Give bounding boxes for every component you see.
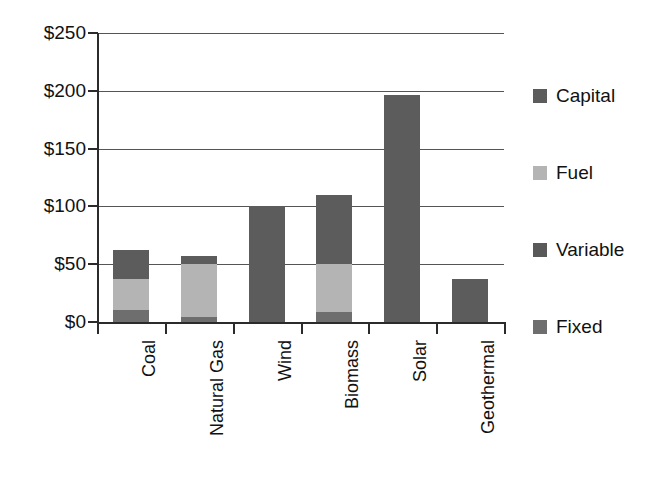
legend-label: Fuel [556, 163, 593, 182]
legend-label: Capital [556, 86, 615, 105]
legend-item-capital[interactable]: Capital [533, 86, 615, 105]
category-label-coal: Coal [140, 340, 158, 377]
bar-segment-fuel [181, 264, 217, 317]
legend-swatch-icon [533, 89, 547, 103]
category-label-geothermal: Geothermal [479, 340, 497, 434]
legend-item-fixed[interactable]: Fixed [533, 317, 602, 336]
levelized-cost-bar-chart: $250$200$150$100$50$0 CoalNatural GasWin… [0, 0, 656, 479]
bar-segment-fixed [113, 310, 149, 322]
bar-segment-fuel [316, 264, 352, 311]
y-axis-tick-label: $100 [22, 196, 86, 215]
legend-label: Variable [556, 240, 624, 259]
bar-segment-capital [384, 95, 420, 322]
y-axis-tick-label: $0 [22, 312, 86, 331]
y-axis-tick-label: $250 [22, 23, 86, 42]
category-label-biomass: Biomass [343, 340, 361, 409]
x-axis-tick [233, 323, 235, 334]
bar-segment-capital [113, 250, 149, 279]
bar-wind [249, 206, 285, 322]
bar-geothermal [452, 279, 488, 322]
legend-swatch-icon [533, 166, 547, 180]
y-axis-tick-label: $150 [22, 139, 86, 158]
x-axis-tick [97, 323, 99, 334]
plot-area [97, 33, 504, 322]
bar-natural-gas [181, 256, 217, 322]
gridline [97, 33, 504, 34]
legend-swatch-icon [533, 320, 547, 334]
y-axis-line [97, 33, 99, 323]
bar-coal [113, 250, 149, 322]
bar-biomass [316, 195, 352, 322]
bar-solar [384, 95, 420, 322]
gridline [97, 206, 504, 207]
bar-segment-fuel [113, 279, 149, 310]
bar-segment-capital [452, 279, 488, 322]
x-axis-tick [165, 323, 167, 334]
y-axis-labels: $250$200$150$100$50$0 [12, 0, 86, 479]
x-axis-tick [436, 323, 438, 334]
gridline [97, 91, 504, 92]
y-axis-tick-label: $50 [22, 254, 86, 273]
x-axis-tick [301, 323, 303, 334]
gridline [97, 264, 504, 265]
y-axis-tick-label: $200 [22, 81, 86, 100]
bar-segment-capital [181, 256, 217, 264]
bar-segment-capital [316, 195, 352, 264]
x-axis-tick [368, 323, 370, 334]
x-axis-tick [504, 323, 506, 334]
legend-label: Fixed [556, 317, 602, 336]
gridline [97, 149, 504, 150]
legend-item-fuel[interactable]: Fuel [533, 163, 593, 182]
category-label-solar: Solar [411, 340, 429, 382]
legend: CapitalFuelVariableFixed [533, 86, 653, 336]
bar-segment-fixed [316, 312, 352, 322]
category-label-wind: Wind [276, 340, 294, 381]
bar-segment-capital [249, 206, 285, 322]
category-label-natural-gas: Natural Gas [208, 340, 226, 436]
legend-swatch-icon [533, 243, 547, 257]
legend-item-variable[interactable]: Variable [533, 240, 624, 259]
